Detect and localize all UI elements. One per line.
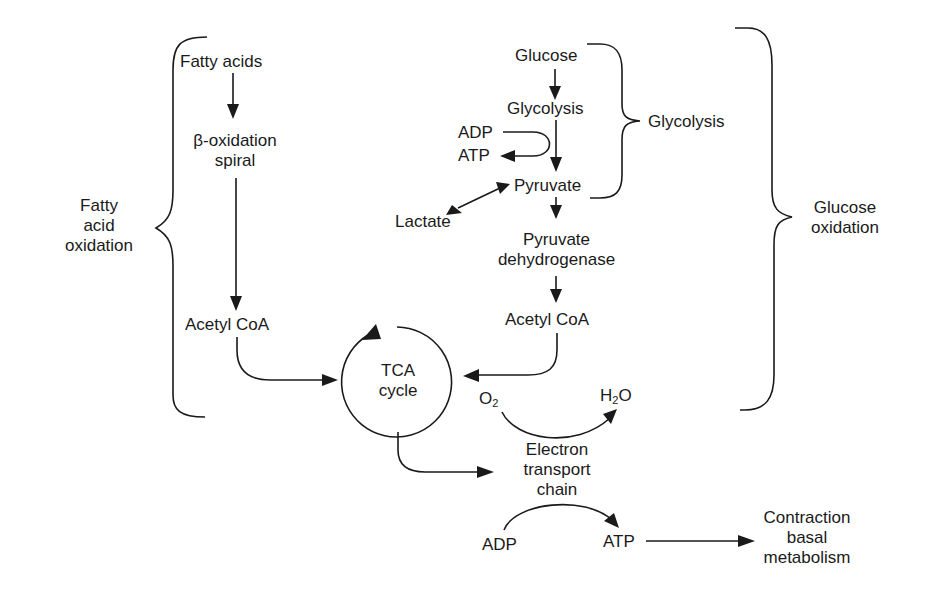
etc-line2: transport: [508, 460, 606, 480]
o2-subscript: 2: [492, 397, 498, 409]
pyruvate-label: Pyruvate: [514, 176, 581, 196]
output-line3: metabolism: [752, 548, 862, 568]
electron-transport-chain-label: Electron transport chain: [508, 440, 606, 500]
arrow-head-icon: [477, 466, 494, 478]
atp-label: ATP: [458, 146, 490, 166]
tca-line2: cycle: [360, 381, 436, 401]
fatty-acid-oxidation-label: Fatty acid oxidation: [54, 196, 144, 256]
atp-bottom-label: ATP: [603, 532, 635, 552]
arrow-head-icon: [362, 324, 381, 340]
glucose-oxidation-line2: oxidation: [798, 218, 892, 238]
glycolysis-brace-label: Glycolysis: [648, 112, 725, 132]
etc-line1: Electron: [508, 440, 606, 460]
o2-label: O2: [479, 389, 498, 413]
tca-line1: TCA: [360, 361, 436, 381]
fatty-acid-oxidation-brace: [156, 37, 207, 417]
beta-oxidation-line1: β-oxidation: [180, 131, 290, 151]
pdh-line1: Pyruvate: [494, 230, 619, 250]
output-line2: basal: [752, 528, 862, 548]
h2o-h: H: [600, 386, 612, 405]
glucose-oxidation-brace: [735, 28, 792, 410]
fatty-acid-oxidation-line2: acid: [54, 216, 144, 236]
glucose-oxidation-label: Glucose oxidation: [798, 198, 892, 238]
metabolism-diagram: Fatty acids β-oxidation spiral Acetyl Co…: [0, 0, 928, 592]
output-line1: Contraction: [752, 508, 862, 528]
adp-bottom-label: ADP: [482, 535, 517, 555]
o2-symbol: O: [479, 389, 492, 408]
adp-label: ADP: [458, 123, 493, 143]
tca-cycle-label: TCA cycle: [360, 361, 436, 401]
arrow-head-icon: [463, 369, 479, 382]
fatty-acids-label: Fatty acids: [180, 52, 262, 72]
h2o-o: O: [618, 386, 631, 405]
arrow-head-icon: [322, 374, 338, 386]
arrow-head-icon: [227, 104, 239, 119]
lactate-label: Lactate: [395, 212, 451, 232]
glycolysis-brace: [587, 44, 640, 198]
acetyl-coa-fatty-label: Acetyl CoA: [185, 315, 269, 335]
contraction-basal-metabolism-label: Contraction basal metabolism: [752, 508, 862, 568]
diagram-connectors: [0, 0, 928, 592]
arrow-head-icon: [500, 150, 515, 162]
etc-line3: chain: [508, 480, 606, 500]
arrow-head-icon: [550, 157, 562, 172]
arrow-head-icon: [550, 205, 562, 219]
fatty-acid-oxidation-line3: oxidation: [54, 236, 144, 256]
h2o-label: H2O: [600, 386, 632, 410]
beta-oxidation-label: β-oxidation spiral: [180, 131, 290, 171]
glucose-label: Glucose: [515, 46, 577, 66]
beta-oxidation-line2: spiral: [180, 151, 290, 171]
fatty-acid-oxidation-line1: Fatty: [54, 196, 144, 216]
arrow-head-icon: [496, 182, 510, 194]
acetyl-coa-glucose-label: Acetyl CoA: [505, 310, 589, 330]
glucose-oxidation-line1: Glucose: [798, 198, 892, 218]
arrow-head-icon: [230, 296, 242, 311]
arrow-head-icon: [549, 86, 561, 100]
pyruvate-dehydrogenase-label: Pyruvate dehydrogenase: [494, 230, 619, 270]
pdh-line2: dehydrogenase: [494, 250, 619, 270]
glycolysis-label: Glycolysis: [507, 99, 584, 119]
arrow-head-icon: [550, 289, 562, 303]
